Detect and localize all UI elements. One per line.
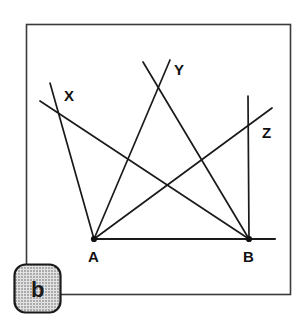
ray-label-x: X [64, 87, 74, 104]
figure-panel: A B X Y Z b [0, 0, 302, 328]
point-a-label: A [88, 248, 99, 265]
ray-label-z: Z [262, 124, 271, 141]
ray-label-y: Y [174, 61, 184, 78]
point-a-dot [91, 236, 97, 242]
line-b-vertical [248, 96, 249, 239]
figure-badge-label: b [31, 277, 44, 302]
point-b-label: B [243, 248, 254, 265]
geometry-figure: A B X Y Z b [0, 0, 302, 328]
point-b-dot [246, 236, 252, 242]
